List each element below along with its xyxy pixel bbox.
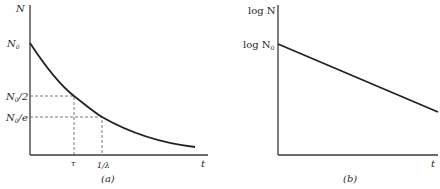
tick-n0-over-e: N0/e	[5, 112, 28, 124]
panel-b: log N log N0 t (b)	[243, 5, 438, 184]
mean-life-guide	[30, 117, 102, 155]
tick-n0-half: N0/2	[5, 91, 28, 103]
panel-a-caption: (a)	[101, 173, 115, 184]
panel-a-x-axis-label: t	[201, 158, 206, 169]
tick-one-over-lambda: 1/λ	[97, 161, 110, 170]
decay-diagram: N N0 N0/2 N0/e τ 1/λ t (a) log N log N0 …	[0, 0, 440, 189]
tick-tau: τ	[71, 159, 76, 168]
log-decay-line	[278, 44, 438, 112]
exponential-decay-curve	[30, 43, 195, 147]
tick-log-n0: log N0	[243, 39, 275, 51]
panel-b-x-axis-label: t	[431, 158, 436, 169]
half-life-guide	[30, 96, 74, 155]
panel-a: N N0 N0/2 N0/e τ 1/λ t (a)	[5, 3, 208, 184]
panel-b-y-axis-label: log N	[248, 5, 276, 16]
panel-a-y-axis-label: N	[15, 3, 26, 14]
tick-n0: N0	[6, 38, 20, 50]
panel-b-caption: (b)	[343, 173, 357, 184]
